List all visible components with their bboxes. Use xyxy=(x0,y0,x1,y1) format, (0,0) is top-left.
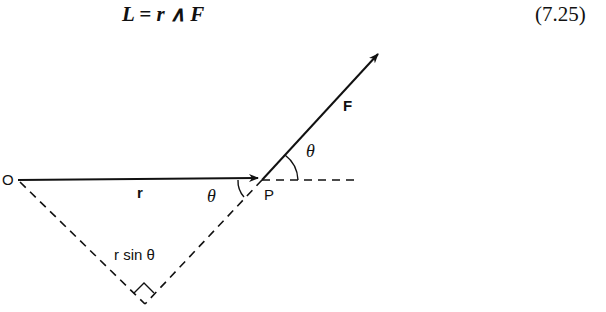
label-r: r xyxy=(137,184,143,201)
page: L = r ∧ F (7.25) O P r F θ θ r sin θ xyxy=(0,0,606,312)
angle-arc-f xyxy=(285,155,298,180)
label-theta-p: θ xyxy=(207,186,216,207)
f-vector-arrow xyxy=(262,54,378,180)
vector-diagram xyxy=(0,0,606,312)
label-r-sin-theta: r sin θ xyxy=(114,246,155,263)
label-origin: O xyxy=(2,171,14,188)
r-vector-arrow xyxy=(18,178,258,180)
dashed-line-o-to-foot xyxy=(20,182,145,304)
label-f: F xyxy=(343,97,352,114)
dashed-line-p-to-foot xyxy=(145,180,262,304)
label-point-p: P xyxy=(264,186,274,203)
label-theta-f: θ xyxy=(306,141,315,162)
right-angle-mark xyxy=(134,283,154,293)
angle-arc-p xyxy=(238,180,244,197)
